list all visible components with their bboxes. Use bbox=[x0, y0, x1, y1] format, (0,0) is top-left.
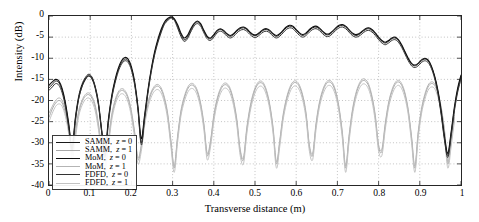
x-tick-label: 0.9 bbox=[401, 189, 441, 199]
legend-box: SAMM, z = 0SAMM, z = 1MoM, z = 0MoM, z =… bbox=[52, 135, 137, 190]
y-tick-label: 0 bbox=[10, 10, 44, 20]
x-tick-label: 0.1 bbox=[69, 189, 109, 199]
figure-container: Intensity (dB) Transverse distance (m) S… bbox=[0, 0, 479, 222]
x-tick-label: 0.3 bbox=[152, 189, 192, 199]
x-tick-label: 0.5 bbox=[235, 189, 275, 199]
y-tick-label: -25 bbox=[10, 117, 44, 127]
y-tick-label: -15 bbox=[10, 74, 44, 84]
y-tick-label: -30 bbox=[10, 138, 44, 148]
legend-line-swatch bbox=[56, 150, 80, 151]
y-tick-label: -10 bbox=[10, 53, 44, 63]
y-tick-label: -5 bbox=[10, 31, 44, 41]
x-axis-label: Transverse distance (m) bbox=[48, 203, 462, 214]
legend-line-swatch bbox=[56, 166, 80, 167]
legend-item-label: FDFD, z = 1 bbox=[85, 179, 128, 187]
x-tick-label: 0.4 bbox=[194, 189, 234, 199]
legend-line-swatch bbox=[56, 183, 80, 184]
x-tick-label: 0.8 bbox=[359, 189, 399, 199]
legend-line-swatch bbox=[56, 158, 80, 159]
x-tick-label: 0.2 bbox=[111, 189, 151, 199]
legend-line-swatch bbox=[56, 142, 80, 143]
y-tick-label: -35 bbox=[10, 160, 44, 170]
y-tick-label: -20 bbox=[10, 96, 44, 106]
x-tick-label: 1 bbox=[442, 189, 479, 199]
x-tick-label: 0.6 bbox=[276, 189, 316, 199]
x-tick-label: 0 bbox=[28, 189, 68, 199]
legend-item[interactable]: FDFD, z = 1 bbox=[56, 179, 132, 187]
legend-line-swatch bbox=[56, 174, 80, 175]
x-tick-label: 0.7 bbox=[318, 189, 358, 199]
